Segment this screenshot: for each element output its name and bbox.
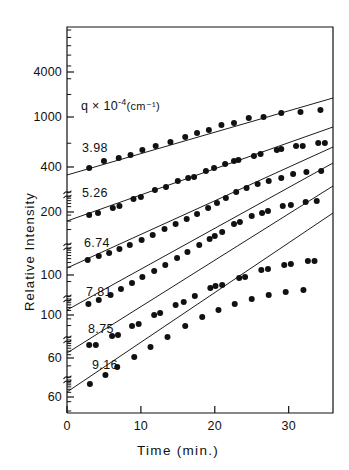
y-tick-label: 60	[22, 390, 62, 404]
x-axis-title: Time (min.)	[137, 443, 219, 458]
axis-ticks	[67, 30, 289, 413]
series-label-6-74: 6.74	[84, 236, 110, 250]
legend-header-exponent: -4	[118, 97, 127, 107]
x-tick-label: 10	[134, 419, 148, 433]
y-tick-label: 4000	[22, 65, 62, 79]
series-label-3-98: 3.98	[82, 141, 108, 155]
legend-header: q × 10-4(cm⁻¹)	[81, 97, 160, 113]
y-tick-label: 1000	[22, 110, 62, 124]
y-tick-label: 400	[22, 160, 62, 174]
data-points	[85, 107, 328, 387]
series-label-9-16: 9.16	[92, 358, 118, 372]
figure-container: 400010004002001001006060 0102030 3.985.2…	[0, 0, 349, 470]
series-label-5-26: 5.26	[82, 186, 108, 200]
x-tick-label: 30	[282, 419, 296, 433]
x-tick-label: 0	[63, 419, 70, 433]
series-label-7-81: 7.81	[86, 285, 112, 299]
legend-header-unit: (cm⁻¹)	[127, 100, 160, 112]
y-axis-title: Relative Intensity	[22, 192, 37, 311]
plot-frame	[67, 27, 333, 413]
legend-header-prefix: q × 10	[81, 99, 118, 113]
x-tick-label: 20	[208, 419, 222, 433]
series-label-8-75: 8.75	[88, 322, 114, 336]
y-tick-label: 60	[22, 351, 62, 365]
